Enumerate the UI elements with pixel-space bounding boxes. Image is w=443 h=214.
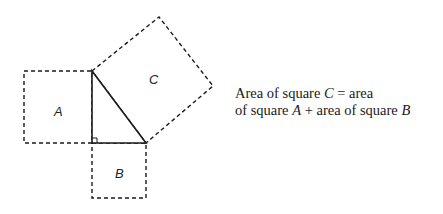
square-a: A [24, 71, 92, 143]
var-a: A [292, 102, 301, 118]
var-b: B [401, 102, 410, 118]
caption-text: + area of square [301, 102, 401, 118]
caption-line-1: Area of square C = area [235, 85, 410, 102]
square-c-label: C [149, 72, 159, 87]
var-c: C [324, 85, 334, 101]
caption-text: Area of square [235, 85, 324, 101]
theorem-caption: Area of square C = area of square A + ar… [235, 85, 410, 119]
square-a-label: A [53, 104, 63, 119]
right-triangle [92, 71, 146, 143]
caption-text: of square [235, 102, 292, 118]
caption-line-2: of square A + area of square B [235, 102, 410, 119]
caption-text: = area [334, 85, 374, 101]
square-b-label: B [115, 166, 124, 181]
square-b: B [92, 143, 146, 198]
